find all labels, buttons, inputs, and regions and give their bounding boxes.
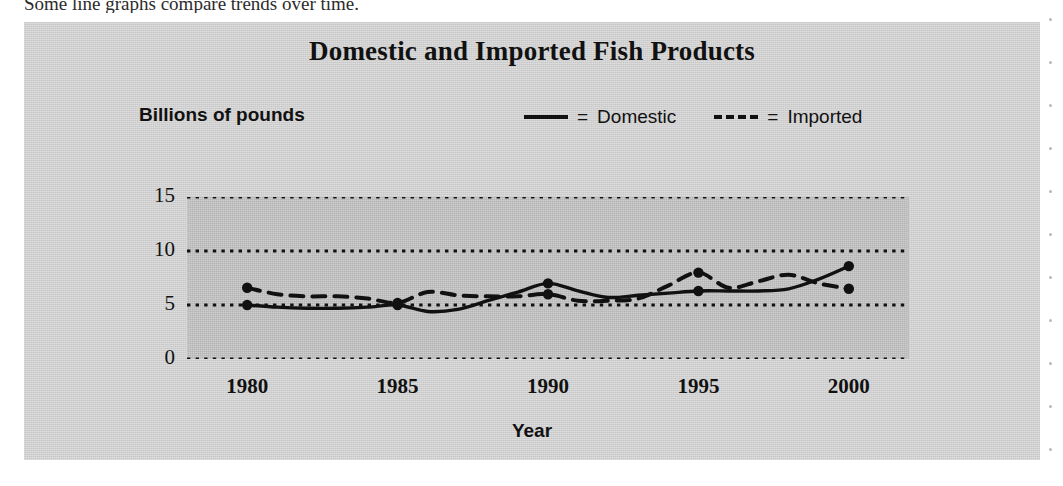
intro-sentence: Some line graphs compare trends over tim… <box>24 0 664 13</box>
x-tick-1990: 1990 <box>503 374 593 399</box>
data-point-marker <box>844 284 854 294</box>
y-tick-0: 0 <box>129 345 175 370</box>
chart-title: Domestic and Imported Fish Products <box>24 36 1040 67</box>
legend-equals-domestic: = <box>577 106 588 128</box>
chart-legend: = Domestic = Imported <box>524 106 862 128</box>
plot-area <box>187 197 909 359</box>
data-point-marker <box>693 267 703 277</box>
page-binding-dots <box>1047 18 1057 468</box>
x-tick-1980: 1980 <box>202 374 292 399</box>
data-point-marker <box>543 289 553 299</box>
data-point-marker <box>242 283 252 293</box>
y-axis-title: Billions of pounds <box>139 104 305 126</box>
data-point-marker <box>392 298 402 308</box>
legend-label-domestic: Domestic <box>597 106 676 128</box>
y-tick-5: 5 <box>129 291 175 316</box>
legend-equals-imported: = <box>767 106 778 128</box>
figure-panel: Domestic and Imported Fish Products Bill… <box>24 22 1040 460</box>
y-tick-15: 15 <box>129 183 175 208</box>
x-tick-1985: 1985 <box>353 374 443 399</box>
dashed-line-icon <box>714 115 758 119</box>
x-tick-1995: 1995 <box>653 374 743 399</box>
data-point-marker <box>242 300 252 310</box>
plot-svg <box>187 197 909 359</box>
y-tick-10: 10 <box>129 237 175 262</box>
x-tick-2000: 2000 <box>804 374 894 399</box>
legend-entry-domestic: = Domestic <box>524 106 676 128</box>
series-line-domestic <box>247 266 849 312</box>
legend-entry-imported: = Imported <box>714 106 862 128</box>
legend-label-imported: Imported <box>787 106 862 128</box>
data-point-marker <box>693 286 703 296</box>
data-point-marker <box>543 278 553 288</box>
data-point-marker <box>844 261 854 271</box>
solid-line-icon <box>524 115 568 119</box>
x-axis-title: Year <box>24 420 1040 442</box>
